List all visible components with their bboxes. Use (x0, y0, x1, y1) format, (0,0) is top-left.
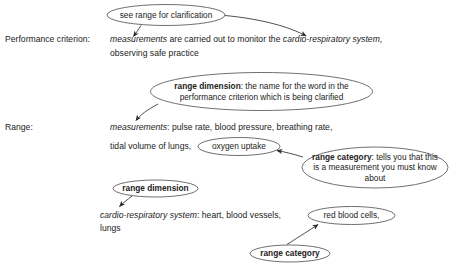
range-line-cardio-respiratory: cardio-respiratory system: heart, blood … (100, 210, 281, 222)
diagram-canvas: Performance criterion: Range: measuremen… (0, 0, 458, 266)
connector-range-category-bottom-to-red-blood-cells (287, 225, 318, 245)
callout-range-category-right-lead: range category (312, 152, 371, 162)
term-cardio-respiratory-system: cardio-respiratory system (283, 34, 380, 44)
callout-range-category-right-text: range category: tells you that this is a… (307, 152, 443, 183)
range-line-lungs: lungs (100, 223, 121, 235)
circled-term-red-blood-cells-text: red blood cells, (308, 210, 395, 220)
performance-criterion-line-1: measurements are carried out to monitor … (110, 34, 382, 46)
callout-range-dimension-lower-lead: range dimension (122, 183, 188, 193)
connector-see-range-to-cardio-respiratory (225, 16, 306, 37)
range-measurements-list: : pulse rate, blood pressure, breathing … (167, 122, 332, 132)
term-measurements-range: measurements (110, 122, 167, 132)
callout-range-category-right: range category: tells you that this is a… (307, 147, 443, 188)
range-line-tidal-volume: tidal volume of lungs, (110, 141, 191, 153)
range-line-measurements: measurements: pulse rate, blood pressure… (110, 122, 332, 134)
row-label-performance-criterion: Performance criterion: (5, 34, 90, 46)
term-measurements: measurements (110, 34, 167, 44)
connector-range-category-right-to-oxygen-uptake (277, 151, 303, 158)
callout-range-dimension-top: range dimension: the name for the word i… (154, 73, 369, 110)
range-cardio-list: : heart, blood vessels, (197, 210, 281, 220)
circled-term-oxygen-uptake: oxygen uptake (198, 138, 280, 155)
pc-text-mid: are carried out to monitor the (167, 34, 283, 44)
pc-text-comma: , (380, 34, 382, 44)
callout-range-dimension-top-lead: range dimension (174, 81, 240, 91)
circled-term-red-blood-cells: red blood cells, (308, 207, 395, 224)
circled-term-oxygen-uptake-text: oxygen uptake (198, 141, 280, 151)
callout-see-range-text: see range for clarification (107, 10, 225, 20)
performance-criterion-line-2: observing safe practice (110, 48, 199, 60)
callout-see-range-for-clarification: see range for clarification (107, 5, 225, 26)
term-cardio-respiratory-system-range: cardio-respiratory system (100, 210, 197, 220)
callout-range-dimension-lower: range dimension (113, 180, 198, 197)
row-label-range: Range: (5, 122, 33, 134)
callout-range-category-bottom: range category (250, 245, 330, 262)
callout-range-dimension-top-text: range dimension: the name for the word i… (154, 81, 369, 102)
callout-range-category-bottom-lead: range category (260, 248, 319, 258)
connector-range-dimension-lower-to-cardio-respiratory (120, 196, 133, 207)
